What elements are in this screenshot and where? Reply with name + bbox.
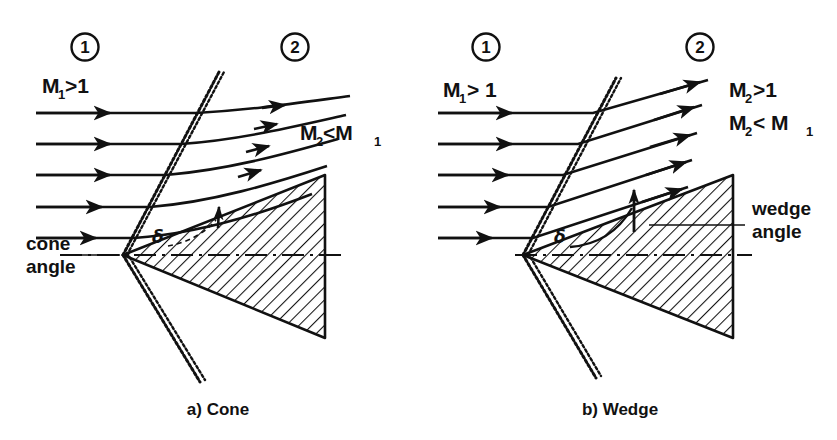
cone-caption: a) Cone bbox=[187, 400, 249, 419]
region-2-label: 2 bbox=[290, 38, 299, 57]
cone-angle-label-line2: angle bbox=[26, 256, 76, 277]
figure-canvas: 1 2 M 1 >1 M 2 <M 1 bbox=[0, 0, 837, 440]
wedge-angle-label-line2: angle bbox=[752, 221, 802, 242]
cone-mach2-rest: <M bbox=[323, 121, 353, 144]
cone-mach1-base: M bbox=[42, 74, 60, 97]
wedge-mach2b-sub2: 1 bbox=[806, 124, 813, 139]
wedge-mach2a-sub: 2 bbox=[745, 91, 752, 106]
region-1-label-wedge: 1 bbox=[481, 38, 490, 57]
wedge-angle-label-line1: wedge bbox=[751, 198, 811, 219]
wedge-mach2b-sub: 2 bbox=[745, 124, 752, 139]
wedge-caption: b) Wedge bbox=[582, 400, 658, 419]
cone-mach2-sub2: 1 bbox=[374, 134, 381, 149]
region-2-label-wedge: 2 bbox=[695, 38, 704, 57]
wedge-mach2a-rest: >1 bbox=[753, 78, 777, 101]
wedge-mach2b-rest: < M bbox=[753, 111, 789, 134]
wedge-mach1-rest: > 1 bbox=[467, 78, 497, 101]
cone-delta-symbol: δ bbox=[152, 227, 164, 247]
wedge-delta-symbol: δ bbox=[554, 227, 566, 247]
flow-diagram-svg: 1 2 M 1 >1 M 2 <M 1 bbox=[0, 0, 837, 440]
wedge-mach1-base: M bbox=[443, 78, 461, 101]
cone-mach1-rest: >1 bbox=[65, 74, 89, 97]
wedge-mach2a-base: M bbox=[729, 78, 747, 101]
wedge-mach1-sub: 1 bbox=[459, 91, 466, 106]
wedge-mach2b-base: M bbox=[729, 111, 747, 134]
region-1-label: 1 bbox=[80, 38, 89, 57]
cone-angle-label-line1: cone bbox=[26, 233, 70, 254]
